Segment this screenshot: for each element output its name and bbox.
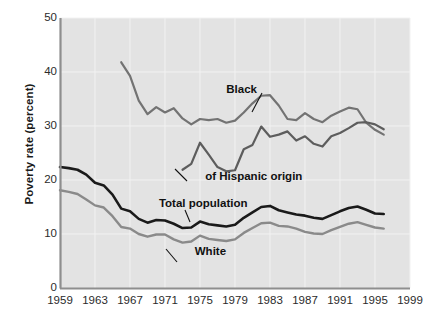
x-tick-label: 1959 <box>42 295 78 307</box>
x-tick-label: 1971 <box>147 295 183 307</box>
x-tick-label: 1979 <box>217 295 253 307</box>
x-tick-label: 1967 <box>112 295 148 307</box>
x-tick-label: 1983 <box>252 295 288 307</box>
x-tick-label: 1999 <box>392 295 428 307</box>
series-annotation-of-hispanic-origin: of Hispanic origin <box>205 171 302 183</box>
x-axis-tick-labels: 1959196319671971197519791983198719911995… <box>0 0 441 323</box>
x-tick-label: 1991 <box>322 295 358 307</box>
series-annotation-white: White <box>195 246 226 258</box>
x-tick-label: 1995 <box>357 295 393 307</box>
x-tick-label: 1987 <box>287 295 323 307</box>
series-annotation-total-population: Total population <box>159 198 248 210</box>
poverty-rate-line-chart: Poverty rate (percent) 01020304050 19591… <box>0 0 441 323</box>
x-tick-label: 1963 <box>77 295 113 307</box>
series-annotation-black: Black <box>226 84 257 96</box>
x-tick-label: 1975 <box>182 295 218 307</box>
